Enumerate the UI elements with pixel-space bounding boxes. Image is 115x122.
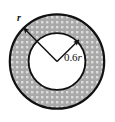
inner-radius-label-variable: r <box>77 51 81 63</box>
inner-radius-label: 0.6r <box>64 52 82 63</box>
annulus-figure: r 0.6r <box>0 0 115 122</box>
outer-radius-label: r <box>17 13 21 23</box>
inner-radius-label-prefix: 0.6 <box>64 51 77 63</box>
